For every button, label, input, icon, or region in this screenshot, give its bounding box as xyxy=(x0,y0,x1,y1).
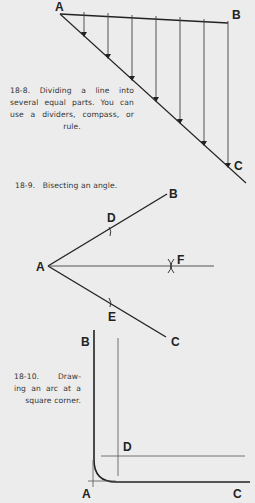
corner-arc-outline xyxy=(94,330,250,482)
label-a: A xyxy=(36,260,45,274)
arm-ab xyxy=(48,194,167,266)
label-c: C xyxy=(234,159,243,173)
caption-18-8: 18-8. Dividing a line into several equal… xyxy=(10,85,134,133)
caption-line: square corner. xyxy=(14,395,81,407)
label-c: C xyxy=(233,487,242,501)
label-a: A xyxy=(55,0,64,14)
label-b: B xyxy=(232,8,241,22)
caption-line: use a dividers, compass, or xyxy=(10,109,134,121)
caption-18-10: 18-10. Draw- ing an arc at a square corn… xyxy=(14,371,81,407)
label-c: C xyxy=(171,335,180,349)
label-f: F xyxy=(177,253,184,267)
caption-line: 18-8. Dividing a line into xyxy=(10,85,134,97)
caption-line: several equal parts. You can xyxy=(10,97,134,109)
label-d: D xyxy=(123,440,132,454)
label-b: B xyxy=(169,187,178,201)
label-d: D xyxy=(107,211,116,225)
caption-line: 18-10. Draw- xyxy=(14,371,81,383)
caption-line: ing an arc at a xyxy=(14,383,81,395)
figure-18-10: A B C D xyxy=(81,330,250,501)
caption-line: rule. xyxy=(10,121,134,133)
arm-ac xyxy=(48,266,166,337)
label-a: A xyxy=(82,487,91,501)
geometry-diagrams: A B C A B C D E F A B C D xyxy=(0,0,255,503)
caption-18-9: 18-9. Bisecting an angle. xyxy=(15,180,117,192)
figure-18-9: A B C D E F xyxy=(36,187,214,349)
line-ab xyxy=(60,14,228,23)
label-e: E xyxy=(108,310,116,324)
label-b: B xyxy=(81,335,90,349)
